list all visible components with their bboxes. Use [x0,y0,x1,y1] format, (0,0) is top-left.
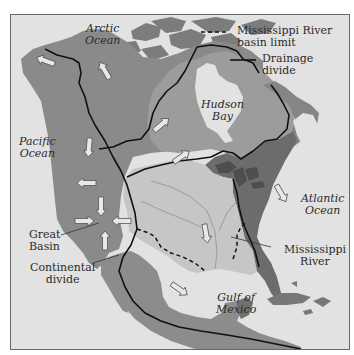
label-mississippi-river: Mississippi River [284,244,346,268]
label-line: Bay [201,111,244,123]
label-arctic-ocean: Arctic Ocean [85,23,120,47]
legend-item-basin-limit: Mississippi River basin limit [237,25,332,49]
label-gulf-of-mexico: Gulf of Mexico [216,292,256,316]
label-great-basin: Great Basin [29,229,61,253]
label-continental-divide: Continental divide [30,262,95,286]
legend-item-drainage-divide: Drainage divide [262,53,313,77]
label-line: Ocean [85,35,120,47]
solid-line-symbol [230,57,256,63]
label-line: River [284,256,346,268]
label-line: Ocean [19,148,56,160]
legend-label-line2: divide [262,65,313,77]
label-atlantic-ocean: Atlantic Ocean [301,193,344,217]
label-hudson-bay: Hudson Bay [201,99,244,123]
label-line: Ocean [301,205,344,217]
label-line: Basin [29,241,61,253]
label-pacific-ocean: Pacific Ocean [19,136,56,160]
label-line: divide [30,274,95,286]
legend-label-line2: basin limit [237,37,332,49]
label-line: Mexico [216,304,256,316]
map-frame: Mississippi River basin limit Drainage d… [10,14,350,350]
dashed-line-symbol [201,29,227,35]
